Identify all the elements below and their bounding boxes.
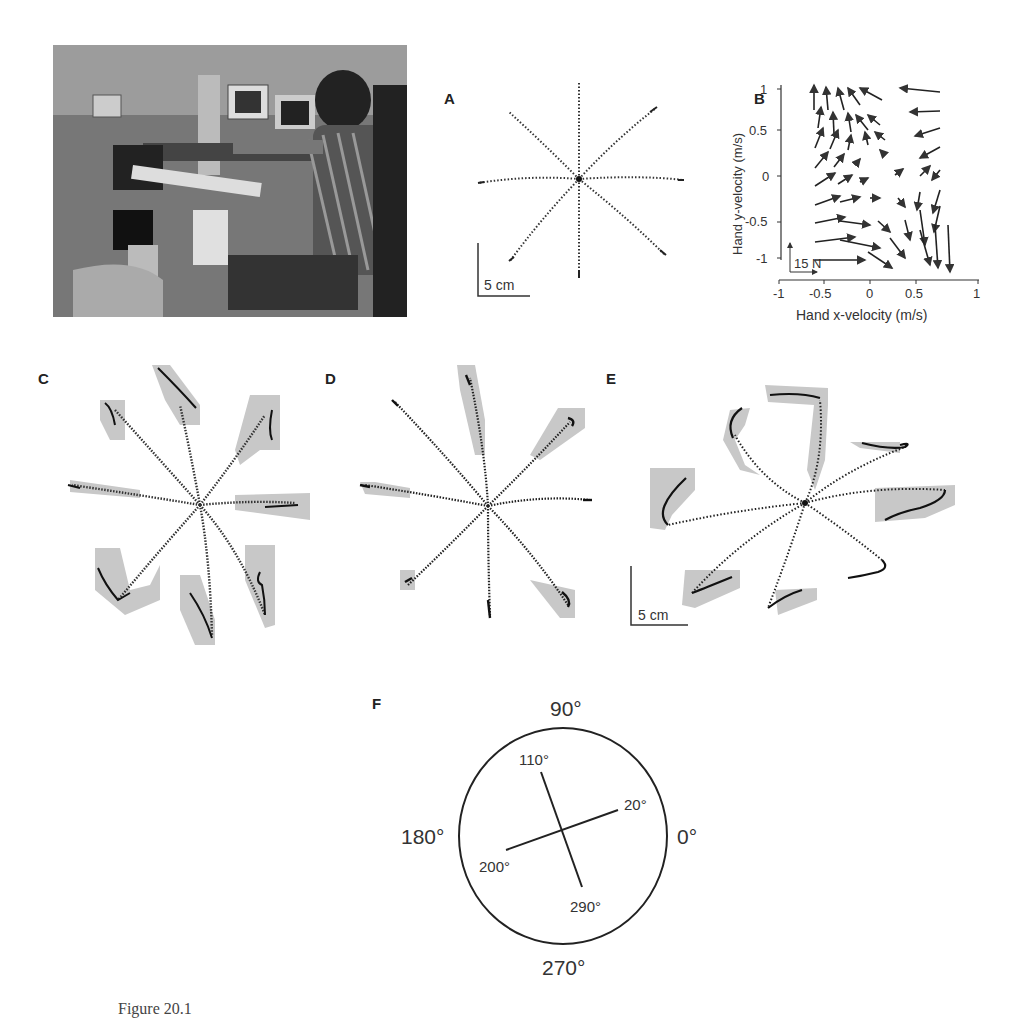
y-tick-0: 0 [762, 169, 769, 184]
label-180: 180° [401, 825, 444, 848]
y-axis-label: Hand y-velocity (m/s) [730, 133, 745, 255]
panel-label-c: C [38, 370, 49, 387]
label-200: 200° [479, 858, 510, 875]
label-20: 20° [624, 796, 647, 813]
panel-d-trajectories [340, 360, 620, 650]
x-tick-0.5: 0.5 [905, 286, 923, 301]
x-tick-1: 1 [973, 286, 980, 301]
y-tick-1: 1 [760, 82, 767, 97]
figure-caption: Figure 20.1 [118, 1000, 192, 1018]
label-90: 90° [550, 697, 582, 720]
x-axis-label: Hand x-velocity (m/s) [796, 307, 927, 323]
panel-a-trajectories: 5 cm [440, 80, 730, 310]
panel-e-trajectories: 5 cm [600, 350, 960, 650]
x-tick-neg1: -1 [773, 286, 785, 301]
panel-f-polar-diagram: 90° 180° 0° 270° 110° 20° 200° 290° [380, 640, 700, 980]
scale-bar-a-label: 5 cm [484, 277, 514, 293]
panel-label-d: D [325, 370, 336, 387]
lab-photo [53, 45, 407, 317]
label-0: 0° [677, 825, 697, 848]
scale-bar-e-label: 5 cm [638, 607, 668, 623]
y-tick-neg1: -1 [756, 251, 768, 266]
x-tick-neg0.5: -0.5 [809, 286, 831, 301]
panel-c-trajectories [50, 350, 350, 650]
y-tick-neg0.5: -0.5 [745, 214, 767, 229]
label-290: 290° [570, 898, 601, 915]
force-scale-label: 15 N [794, 256, 821, 271]
x-tick-0: 0 [866, 286, 873, 301]
axis-110-290 [541, 772, 582, 887]
label-110: 110° [519, 751, 549, 768]
label-270: 270° [542, 956, 585, 979]
panel-b-force-field: 1 0.5 0 -0.5 -1 Hand y-velocity (m/s) -1… [720, 80, 1000, 330]
y-tick-0.5: 0.5 [749, 123, 767, 138]
